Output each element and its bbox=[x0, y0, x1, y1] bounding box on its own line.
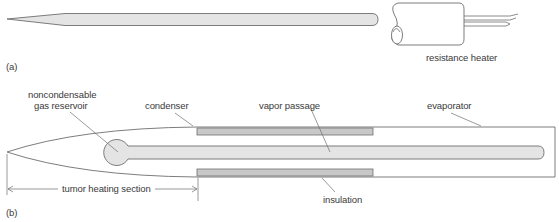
resistance-heater-label: resistance heater bbox=[426, 52, 497, 63]
insulation-label: insulation bbox=[323, 194, 362, 205]
vapor-passage-label: vapor passage bbox=[259, 100, 320, 111]
evaporator-label: evaporator bbox=[427, 100, 471, 111]
insulation-bottom bbox=[197, 169, 373, 176]
reservoir-label-line2: gas reservoir bbox=[34, 100, 88, 111]
needle-probe bbox=[7, 14, 378, 26]
panel-a-label: (a) bbox=[6, 61, 17, 72]
panel-b-label: (b) bbox=[6, 207, 17, 218]
condenser-label: condenser bbox=[145, 100, 188, 111]
tumor-heating-section-label: tumor heating section bbox=[62, 183, 151, 194]
reservoir-label-line1: noncondensable bbox=[28, 89, 96, 100]
insulation-top bbox=[197, 128, 373, 135]
